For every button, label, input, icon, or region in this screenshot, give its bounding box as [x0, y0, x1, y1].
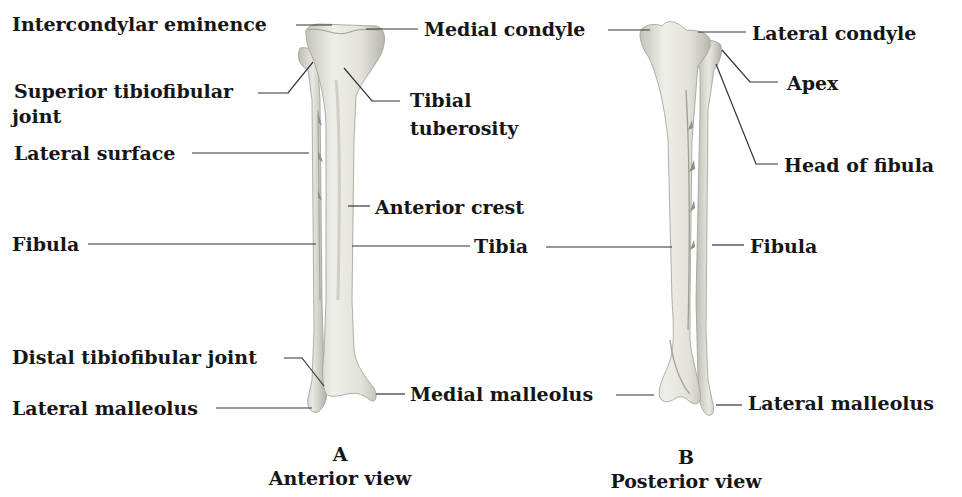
label-anterior-crest: Anterior crest — [375, 196, 524, 218]
view-a-letter: A — [240, 443, 440, 466]
label-lateral-surface: Lateral surface — [14, 142, 175, 164]
view-a-title: Anterior view — [240, 467, 440, 490]
label-fibula-anterior: Fibula — [12, 233, 79, 255]
label-intercondylar-eminence: Intercondylar eminence — [12, 13, 267, 35]
label-tibial: Tibial — [410, 89, 471, 111]
view-b-letter: B — [586, 446, 786, 469]
label-lateral-condyle: Lateral condyle — [752, 22, 916, 44]
label-tibia: Tibia — [474, 235, 528, 257]
label-tibial-tuberosity: tuberosity — [410, 117, 518, 139]
label-medial-malleolus: Medial malleolus — [410, 383, 593, 405]
label-medial-condyle: Medial condyle — [424, 18, 585, 40]
label-lateral-malleolus-posterior: Lateral malleolus — [748, 392, 934, 414]
view-b-title: Posterior view — [586, 470, 786, 493]
posterior-view-bones — [640, 22, 722, 416]
label-superior-tibiofibular: Superior tibiofibular — [14, 80, 233, 102]
anterior-view-bones — [298, 24, 384, 412]
label-lateral-malleolus-anterior: Lateral malleolus — [12, 397, 198, 419]
fibula-b — [696, 41, 722, 416]
label-head-of-fibula: Head of fibula — [784, 154, 934, 176]
fibula-a — [298, 48, 326, 413]
label-distal-tibiofibular-joint: Distal tibiofibular joint — [12, 346, 257, 368]
label-fibula-posterior: Fibula — [750, 235, 817, 257]
label-superior-tibiofibular-joint: joint — [12, 105, 61, 127]
label-apex: Apex — [787, 72, 838, 94]
